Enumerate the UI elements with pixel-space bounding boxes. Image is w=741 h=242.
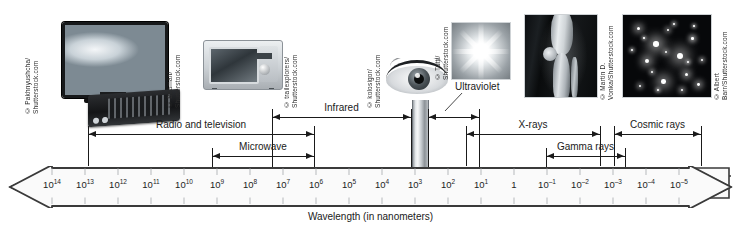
- electromagnetic-spectrum-figure: © Pakhnyushcha/ Shutterstock.com © Beama…: [0, 0, 741, 242]
- credit-television: © Pakhnyushcha/ Shutterstock.com: [24, 18, 40, 114]
- star: [639, 85, 641, 87]
- credit-microwave: © Beaman/ Shutterstock.com: [166, 30, 182, 108]
- axis-tick-label: 109: [210, 179, 224, 190]
- band-arrow-right: [403, 114, 410, 120]
- star: [653, 41, 659, 47]
- axis-tick-label: 106: [309, 179, 323, 190]
- band-arrow-left: [273, 114, 280, 120]
- axis-tick-label: 1: [511, 179, 516, 190]
- credit-eye: © kolosigor/ Shutterstock.com: [366, 34, 382, 108]
- receiver-knob-right: [102, 117, 108, 123]
- axis-tick-label: 105: [342, 179, 356, 190]
- axis-caption: Wavelength (in nanometers): [0, 211, 741, 222]
- band-arrow-left: [429, 114, 436, 120]
- star: [687, 61, 689, 63]
- band-arrow-right: [592, 131, 599, 137]
- band-bracket-cap: [411, 109, 412, 169]
- star: [657, 89, 659, 91]
- star: [691, 37, 694, 40]
- star: [667, 29, 669, 31]
- xray-tibia: [553, 53, 570, 98]
- band-arrow-left: [615, 131, 622, 137]
- microwave-door: [209, 47, 259, 84]
- band-arrow-left: [89, 131, 96, 137]
- axis-tick-label: 1013: [76, 179, 94, 190]
- star: [665, 51, 667, 53]
- axis-tick-label: 103: [408, 179, 422, 190]
- band-label-microwave: Microwave: [239, 141, 287, 152]
- star: [697, 83, 700, 86]
- cosmic-rays-photo: [622, 14, 712, 98]
- microwave-control-panel: [259, 46, 278, 82]
- axis-tick-label: 10–4: [637, 179, 655, 190]
- band-bracket-cap: [701, 126, 702, 166]
- ultraviolet-label: Ultraviolet: [451, 80, 503, 93]
- band-bracket-line: [212, 156, 314, 157]
- microwave-oven-photo: [203, 40, 283, 90]
- axis-tick-label: 1010: [175, 179, 193, 190]
- star: [701, 59, 703, 61]
- band-label-x-rays: X-rays: [519, 119, 548, 130]
- axis-tick-label: 10–1: [538, 179, 556, 190]
- star: [645, 59, 649, 63]
- xray-fibula: [571, 57, 578, 98]
- band-label-infrared: Infrared: [324, 102, 358, 113]
- credit-sun: © Tutti/ Shutterstock.com: [434, 18, 450, 80]
- axis-tick-label: 101: [474, 179, 488, 190]
- axis-tick-label: 108: [243, 179, 257, 190]
- axis-tick-label: 104: [375, 179, 389, 190]
- star: [637, 27, 640, 30]
- axis-tick-label: 102: [441, 179, 455, 190]
- band-label-cosmic-rays: Cosmic rays: [630, 119, 685, 130]
- band-bracket-cap: [479, 109, 480, 169]
- star: [631, 49, 633, 51]
- star: [685, 73, 688, 76]
- star: [677, 53, 683, 59]
- receiver-panel: [108, 94, 170, 118]
- band-label-radio-and-television: Radio and television: [156, 119, 246, 130]
- microwave-dial: [259, 64, 270, 75]
- axis-tick-label: 1014: [43, 179, 61, 190]
- receiver-knob-left: [93, 117, 99, 123]
- microwave-foot-left: [212, 88, 217, 90]
- band-arrow-right: [306, 153, 313, 159]
- microwave-display: [257, 53, 272, 59]
- credit-xray: © Martin D. Vonka/Shutterstock.com: [599, 14, 615, 100]
- band-arrow-right: [617, 153, 624, 159]
- star: [681, 89, 683, 91]
- wavelength-axis: 1014101310121011101010910810710610510410…: [8, 166, 733, 208]
- credit-cosmic: © Albert Barr/Shutterstock.com: [713, 14, 729, 100]
- star: [643, 37, 645, 39]
- band-arrow-left: [547, 153, 554, 159]
- sun-photo: [451, 22, 511, 80]
- xray-knee-photo: [524, 14, 598, 98]
- axis-tick-label: 1011: [142, 179, 159, 190]
- axis-tick-label: 1012: [109, 179, 127, 190]
- star: [661, 79, 666, 84]
- star: [651, 71, 653, 73]
- band-bracket-line: [88, 134, 314, 135]
- axis-tick-label: 10–5: [670, 179, 688, 190]
- ultraviolet-leader-line: [444, 92, 464, 112]
- band-bracket-line: [272, 117, 411, 118]
- band-arrow-left: [213, 153, 220, 159]
- microwave-foot-right: [269, 88, 274, 90]
- band-bracket-line: [614, 134, 701, 135]
- band-arrow-left: [467, 131, 474, 137]
- star: [673, 23, 675, 25]
- axis-tick-label: 10–3: [604, 179, 622, 190]
- television-photo: [62, 22, 168, 98]
- band-arrow-right: [693, 131, 700, 137]
- axis-tick-label: 10–2: [571, 179, 589, 190]
- band-label-gamma-rays: Gamma rays: [557, 141, 614, 152]
- credit-trailexplorers: © trailexplorers/ Shutterstock.com: [283, 30, 299, 108]
- band-arrow-right: [471, 114, 478, 120]
- band-bracket-line: [466, 134, 600, 135]
- axis-tick-label: 107: [276, 179, 290, 190]
- visible-light-column: [412, 100, 429, 176]
- star: [693, 25, 695, 27]
- band-arrow-right: [306, 131, 313, 137]
